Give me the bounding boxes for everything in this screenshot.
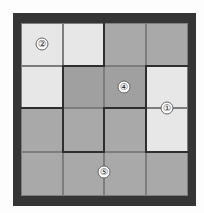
region-wall: [63, 65, 105, 67]
clue-circle-2: ②: [36, 38, 49, 51]
cell-r1c2[interactable]: [63, 23, 104, 66]
cell-r3c3[interactable]: [104, 108, 146, 152]
cell-r4c4[interactable]: [146, 152, 188, 196]
cell-r1c4[interactable]: [146, 23, 188, 66]
region-wall: [145, 151, 188, 153]
region-wall: [145, 65, 188, 67]
cell-r2c1[interactable]: [21, 66, 63, 108]
region-wall: [145, 65, 147, 153]
cell-r3c1[interactable]: [21, 108, 63, 152]
cell-r1c3[interactable]: [104, 23, 146, 66]
cell-r3c4[interactable]: [146, 108, 188, 152]
region-wall: [103, 107, 105, 153]
region-wall: [63, 151, 105, 153]
region-wall: [104, 107, 146, 109]
cell-r3c2[interactable]: [63, 108, 104, 152]
clue-circle-5: ⑤: [98, 166, 111, 179]
cell-r4c3[interactable]: [104, 152, 146, 196]
clue-circle-1: ①: [161, 102, 174, 115]
region-wall: [62, 65, 64, 153]
region-wall: [21, 107, 63, 109]
clue-circle-4: ④: [118, 81, 131, 94]
cell-r2c2[interactable]: [63, 66, 104, 108]
region-wall: [103, 23, 105, 66]
cell-r4c1[interactable]: [21, 152, 63, 196]
